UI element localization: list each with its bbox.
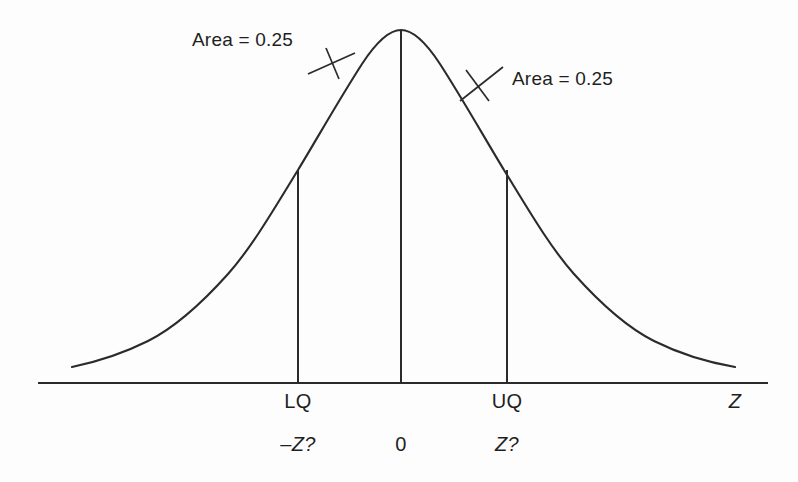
normal-distribution-figure: Area = 0.25 Area = 0.25 LQ UQ Z –Z? 0 Z? [0,0,798,482]
upper-quartile-value-label: Z? [494,433,520,455]
left-area-label: Area = 0.25 [192,29,293,50]
right-area-label: Area = 0.25 [512,68,613,89]
left-area-leader-tick [326,48,339,79]
lower-quartile-tick-label: LQ [284,390,311,412]
normal-curve [72,30,735,367]
upper-quartile-tick-label: UQ [492,390,523,412]
center-value-label: 0 [395,433,406,455]
right-area-leader-line [460,67,503,101]
right-area-leader-tick [466,70,489,101]
z-axis-label: Z [728,390,742,412]
left-area-leader-line [308,53,355,74]
distribution-canvas: Area = 0.25 Area = 0.25 LQ UQ Z –Z? 0 Z? [0,0,798,482]
lower-quartile-value-label: –Z? [279,433,316,455]
